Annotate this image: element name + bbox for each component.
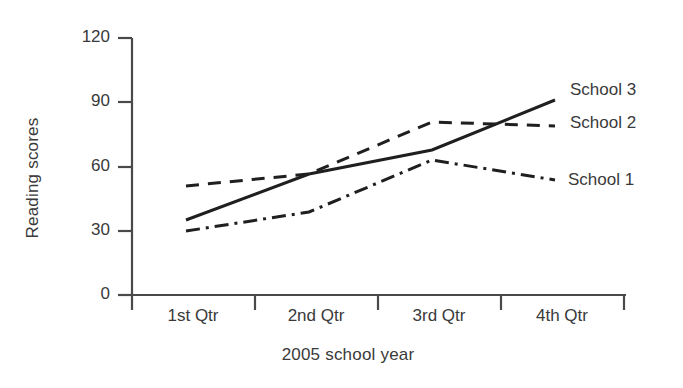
line-chart: 120 90 60 30 0 1st Qtr 2nd Qtr 3rd Qtr 4… — [0, 0, 683, 388]
y-tick-label-90: 90 — [50, 91, 110, 111]
chart-plot-area — [0, 0, 683, 388]
y-tick-label-120: 120 — [50, 27, 110, 47]
y-axis-title: Reading scores — [23, 98, 43, 258]
series-line-school-1 — [186, 160, 555, 231]
x-tick-label-4th-qtr: 4th Qtr — [502, 306, 622, 326]
y-tick-label-30: 30 — [50, 220, 110, 240]
series-line-school-2 — [186, 122, 555, 186]
y-axis-ticks — [118, 38, 132, 295]
series-label-school-3: School 3 — [570, 80, 636, 100]
y-tick-label-60: 60 — [50, 156, 110, 176]
x-tick-label-1st-qtr: 1st Qtr — [133, 306, 253, 326]
x-tick-label-2nd-qtr: 2nd Qtr — [256, 306, 376, 326]
series-label-school-2: School 2 — [570, 113, 636, 133]
y-tick-label-0: 0 — [50, 284, 110, 304]
x-axis-title: 2005 school year — [238, 345, 458, 365]
series-label-school-1: School 1 — [568, 170, 634, 190]
series-line-school-3 — [186, 100, 555, 220]
x-tick-label-3rd-qtr: 3rd Qtr — [379, 306, 499, 326]
